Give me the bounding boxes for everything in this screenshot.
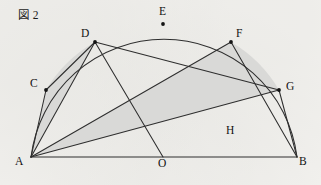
point-dot-E (161, 22, 165, 26)
point-label-B: B (299, 156, 307, 168)
point-label-C: C (30, 78, 38, 90)
point-label-E: E (159, 6, 166, 18)
point-label-O: O (158, 158, 166, 170)
point-dot-C (44, 88, 48, 92)
segment-chord-BG (279, 90, 297, 157)
point-dot-F (229, 40, 233, 44)
point-dot-G (277, 88, 281, 92)
figure-container: 図 2 A B C D E F G H O (0, 0, 321, 185)
point-label-F: F (236, 28, 242, 40)
point-label-D: D (81, 28, 89, 40)
point-label-A: A (15, 156, 23, 168)
figure-caption: 図 2 (18, 6, 39, 22)
shaded-regions (31, 42, 279, 157)
point-label-H: H (226, 125, 234, 137)
point-dot-D (93, 40, 97, 44)
region-AFG-shading (31, 42, 279, 157)
point-label-G: G (286, 81, 294, 93)
